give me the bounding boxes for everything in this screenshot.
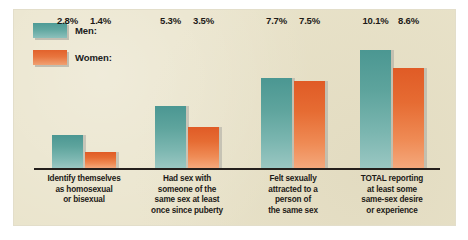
category-label-4-line-4: or experience <box>334 206 450 217</box>
x-axis-baseline <box>34 168 440 170</box>
bar-value-3-women: 7.5% <box>299 15 320 26</box>
bar-slot-1-men: 2.8% <box>51 28 84 168</box>
bar-group-4: 10.1% 8.6% <box>344 28 440 168</box>
plot-area: 2.8% 1.4% 5.3% 3.5% <box>14 10 455 225</box>
bar-1-women <box>85 152 116 168</box>
category-label-1-line-3: or bisexual <box>26 195 142 206</box>
bar-slot-1-women: 1.4% <box>84 28 117 168</box>
category-label-2-line-4: once since puberty <box>129 206 245 217</box>
bar-3-men <box>261 78 292 168</box>
bar-group-2: 5.3% 3.5% <box>139 28 235 168</box>
category-label-1-line-2: as homosexual <box>26 185 142 196</box>
category-label-2-line-3: same sex at least <box>129 195 245 206</box>
bar-slot-4-women: 8.6% <box>392 28 425 168</box>
category-label-2-line-1: Had sex with <box>129 174 245 185</box>
bar-slot-2-men: 5.3% <box>154 28 187 168</box>
bar-2-men <box>155 106 186 168</box>
bar-4-men <box>360 50 391 168</box>
bar-1-men <box>52 135 83 168</box>
bar-value-4-women: 8.6% <box>398 15 419 26</box>
bar-slot-2-women: 3.5% <box>187 28 220 168</box>
category-label-4-line-1: TOTAL reporting <box>334 174 450 185</box>
chart-figure: Men: Women: 2.8% 1.4% <box>0 0 468 240</box>
bar-value-2-men: 5.3% <box>160 15 181 26</box>
category-label-1: Identify themselves as homosexual or bis… <box>26 174 142 206</box>
bar-group-1: 2.8% 1.4% <box>36 28 132 168</box>
bar-value-1-men: 2.8% <box>57 15 78 26</box>
bar-slot-4-men: 10.1% <box>359 28 392 168</box>
bar-value-3-men: 7.7% <box>266 15 287 26</box>
category-label-4: TOTAL reporting at least some same-sex d… <box>334 174 450 216</box>
bar-value-4-men: 10.1% <box>363 15 389 26</box>
category-label-2-line-2: someone of the <box>129 185 245 196</box>
bar-value-1-women: 1.4% <box>90 15 111 26</box>
bar-slot-3-men: 7.7% <box>260 28 293 168</box>
bar-slot-3-women: 7.5% <box>293 28 326 168</box>
bar-value-2-women: 3.5% <box>193 15 214 26</box>
category-label-4-line-2: at least some <box>334 185 450 196</box>
bar-group-3: 7.7% 7.5% <box>245 28 341 168</box>
category-label-4-line-3: same-sex desire <box>334 195 450 206</box>
bar-3-women <box>294 81 325 169</box>
bar-2-women <box>188 127 219 168</box>
bar-4-women <box>393 68 424 168</box>
category-label-2: Had sex with someone of the same sex at … <box>129 174 245 216</box>
category-label-1-line-1: Identify themselves <box>26 174 142 185</box>
